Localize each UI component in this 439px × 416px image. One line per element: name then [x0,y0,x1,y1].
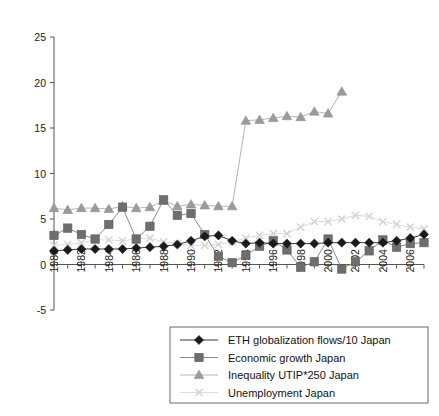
legend-label: Inequality UTIP*250 Japan [228,369,359,381]
x-tick-label: 1996 [267,249,279,273]
x-tick-label: 1988 [158,249,170,273]
y-tick-label: 25 [34,31,46,43]
y-tick-label: 20 [34,77,46,89]
y-tick-label: 15 [34,122,46,134]
chart-legend: ETH globalization flows/10 JapanEconomic… [170,327,428,403]
legend-label: Economic growth Japan [228,352,345,364]
square-marker [242,251,250,259]
square-marker [132,235,140,243]
y-tick-label: 10 [34,168,46,180]
square-marker [159,196,167,204]
square-marker [228,258,236,266]
square-marker [146,222,154,230]
x-tick-label: 2006 [404,249,416,273]
square-marker [338,265,346,273]
square-marker [365,247,373,255]
square-marker [296,263,304,271]
square-marker [105,220,113,228]
y-tick-label: 5 [40,213,46,225]
legend-label: Unemployment Japan [228,387,335,399]
square-marker [50,231,58,239]
x-tick-label: 2000 [322,249,334,273]
square-marker [214,252,222,260]
square-marker [91,235,99,243]
square-marker [118,203,126,211]
x-tick-label: 1990 [185,249,197,273]
square-marker [195,353,203,361]
square-marker [187,209,195,217]
square-marker [351,258,359,266]
chart-container: -50510152025 198019821984198619881990199… [0,0,439,416]
square-marker [77,230,85,238]
y-tick-label: -5 [37,304,46,316]
line-chart: -50510152025 198019821984198619881990199… [0,0,439,416]
legend-label: ETH globalization flows/10 Japan [228,334,391,346]
square-marker [173,211,181,219]
square-marker [310,258,318,266]
x-tick-label: 2004 [377,249,389,273]
square-marker [420,238,428,246]
square-marker [64,224,72,232]
y-tick-label: 0 [40,259,46,271]
